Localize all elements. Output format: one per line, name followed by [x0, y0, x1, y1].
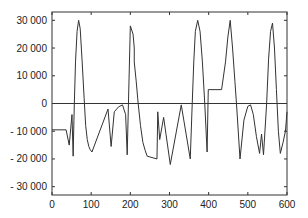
x-tick-label: 0	[49, 199, 55, 210]
x-tick-label: 500	[239, 199, 256, 210]
y-tick-label: 20 000	[16, 43, 47, 54]
y-tick-label: - 30 000	[10, 181, 47, 192]
y-tick-label: - 20 000	[10, 153, 47, 164]
chart: 0100200300400500600 30 00020 00010 0000-…	[0, 0, 308, 218]
x-tick-label: 400	[200, 199, 217, 210]
x-axis: 0100200300400500600	[49, 12, 296, 210]
x-tick-label: 300	[161, 199, 178, 210]
y-tick-label: - 10 000	[10, 126, 47, 137]
y-tick-label: 10 000	[16, 70, 47, 81]
x-tick-label: 600	[279, 199, 296, 210]
x-tick-label: 100	[83, 199, 100, 210]
x-tick-label: 200	[122, 199, 139, 210]
y-tick-label: 0	[41, 98, 47, 109]
series-line	[52, 20, 287, 164]
y-tick-label: 30 000	[16, 15, 47, 26]
